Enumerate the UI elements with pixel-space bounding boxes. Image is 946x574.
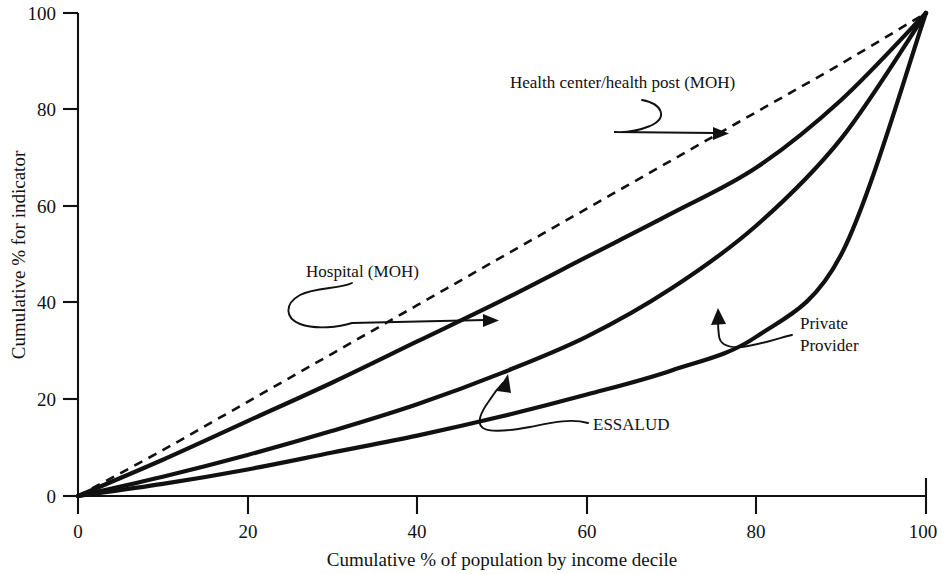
- y-axis-title: Cumulative % for indicator: [8, 150, 29, 359]
- y-tick-label-100: 100: [28, 3, 57, 24]
- annotation-essalud-arrowhead: [497, 374, 511, 393]
- y-tick-label-40: 40: [37, 292, 56, 313]
- curve-essalud: [78, 13, 926, 496]
- annotation-health-center-leader: [614, 100, 715, 133]
- y-tick-labels: 100 80 60 40 20 0: [28, 3, 57, 507]
- y-tick-label-0: 0: [47, 486, 57, 507]
- curve-hospital-moh: [78, 13, 926, 496]
- annotation-private-provider-label-line1: Private: [800, 314, 848, 333]
- annotation-health-center: Health center/health post (MOH): [510, 73, 735, 140]
- annotation-private-provider-leader: [718, 320, 792, 347]
- annotation-private-provider-label-line2: Provider: [800, 336, 859, 355]
- y-tick-marks: [63, 13, 78, 496]
- x-axis-title: Cumulative % of population by income dec…: [327, 549, 677, 570]
- chart-canvas: 100 80 60 40 20 0 0 20 40 60 80 100 Cumu…: [0, 0, 946, 574]
- curve-private-provider: [78, 13, 926, 496]
- annotation-hospital-leader: [288, 283, 485, 327]
- x-tick-label-80: 80: [747, 521, 766, 542]
- annotation-essalud: ESSALUD: [480, 374, 670, 434]
- y-tick-label-20: 20: [37, 389, 56, 410]
- annotation-health-center-arrowhead: [713, 127, 729, 140]
- y-tick-label-80: 80: [37, 99, 56, 120]
- data-curves: [78, 13, 926, 496]
- x-tick-marks: [78, 496, 926, 514]
- y-tick-label-60: 60: [37, 196, 56, 217]
- annotation-hospital-arrowhead: [483, 314, 499, 327]
- x-tick-label-0: 0: [73, 521, 83, 542]
- x-tick-label-100: 100: [909, 521, 938, 542]
- annotation-essalud-label: ESSALUD: [593, 415, 670, 434]
- x-tick-label-60: 60: [578, 521, 597, 542]
- x-tick-label-40: 40: [408, 521, 427, 542]
- x-tick-labels: 0 20 40 60 80 100: [73, 521, 937, 542]
- annotation-health-center-label: Health center/health post (MOH): [510, 73, 735, 92]
- lorenz-curve-chart: 100 80 60 40 20 0 0 20 40 60 80 100 Cumu…: [0, 0, 946, 574]
- annotation-private-provider-arrowhead: [711, 308, 726, 325]
- curve-health-center-health-post: [78, 13, 926, 496]
- axis-lines: [78, 13, 926, 496]
- x-tick-label-20: 20: [239, 521, 258, 542]
- annotation-hospital-label: Hospital (MOH): [306, 262, 419, 281]
